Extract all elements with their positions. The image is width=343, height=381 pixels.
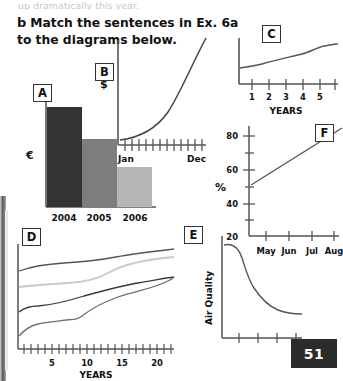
tick-label-4: 4 [300, 92, 306, 102]
data-curve-declining [224, 244, 302, 314]
figure-b-svg: $ Jan Dec [96, 40, 212, 165]
tick-label-15: 15 [116, 358, 128, 368]
figure-tag-c[interactable]: C [262, 25, 281, 43]
figure-b: $ Jan Dec [96, 40, 212, 165]
data-curve-gradual-rise [240, 44, 338, 68]
figure-c: 1 2 3 4 5 YEARS [228, 38, 343, 118]
figure-d-svg: 5 10 15 20 YEARS [8, 244, 184, 379]
textbook-page: up dramatically this year. bMatch the se… [0, 0, 343, 381]
tick-label-40: 40 [226, 199, 238, 209]
axis-label-percent: % [215, 181, 226, 194]
tick-label-aug: Aug [325, 246, 343, 256]
tick-label-5: 5 [49, 358, 55, 368]
figure-e-svg: Air Quality [182, 236, 304, 361]
figure-tag-d[interactable]: D [22, 228, 41, 246]
tick-label-80: 80 [226, 131, 238, 141]
faded-top-line: up dramatically this year. [18, 0, 208, 10]
figure-d: 5 10 15 20 YEARS [8, 244, 184, 379]
tick-label-5: 5 [317, 92, 323, 102]
axis-label-years: YEARS [78, 370, 112, 380]
tick-label-3: 3 [283, 92, 289, 102]
tick-label-2005: 2005 [86, 213, 111, 223]
tick-label-20: 20 [151, 358, 163, 368]
tick-label-1: 1 [249, 92, 255, 102]
tick-label-60: 60 [226, 165, 238, 175]
axis-label-air-quality: Air Quality [204, 271, 214, 325]
figure-tag-e[interactable]: E [184, 226, 203, 244]
data-curve-exponential [120, 38, 206, 140]
bar-2004 [47, 107, 82, 207]
tick-label-jul: Jul [305, 246, 318, 256]
tick-label-jan: Jan [117, 154, 134, 164]
data-line-4 [19, 277, 174, 336]
figure-tag-a[interactable]: A [33, 84, 52, 102]
bar-2006 [117, 167, 152, 207]
figure-tag-b[interactable]: B [95, 63, 114, 81]
exercise-letter: b [17, 15, 26, 30]
figure-c-svg: 1 2 3 4 5 YEARS [228, 38, 343, 118]
data-line-2 [19, 257, 174, 287]
tick-label-2004: 2004 [51, 213, 76, 223]
figure-tag-f[interactable]: F [315, 124, 334, 142]
figure-e: Air Quality [182, 236, 304, 361]
tick-label-2006: 2006 [122, 213, 147, 223]
tick-label-2: 2 [266, 92, 272, 102]
page-number: 51 [291, 339, 337, 368]
tick-label-10: 10 [81, 358, 93, 368]
axis-label-euro: € [25, 149, 34, 162]
axis-label-years: YEARS [268, 106, 302, 116]
